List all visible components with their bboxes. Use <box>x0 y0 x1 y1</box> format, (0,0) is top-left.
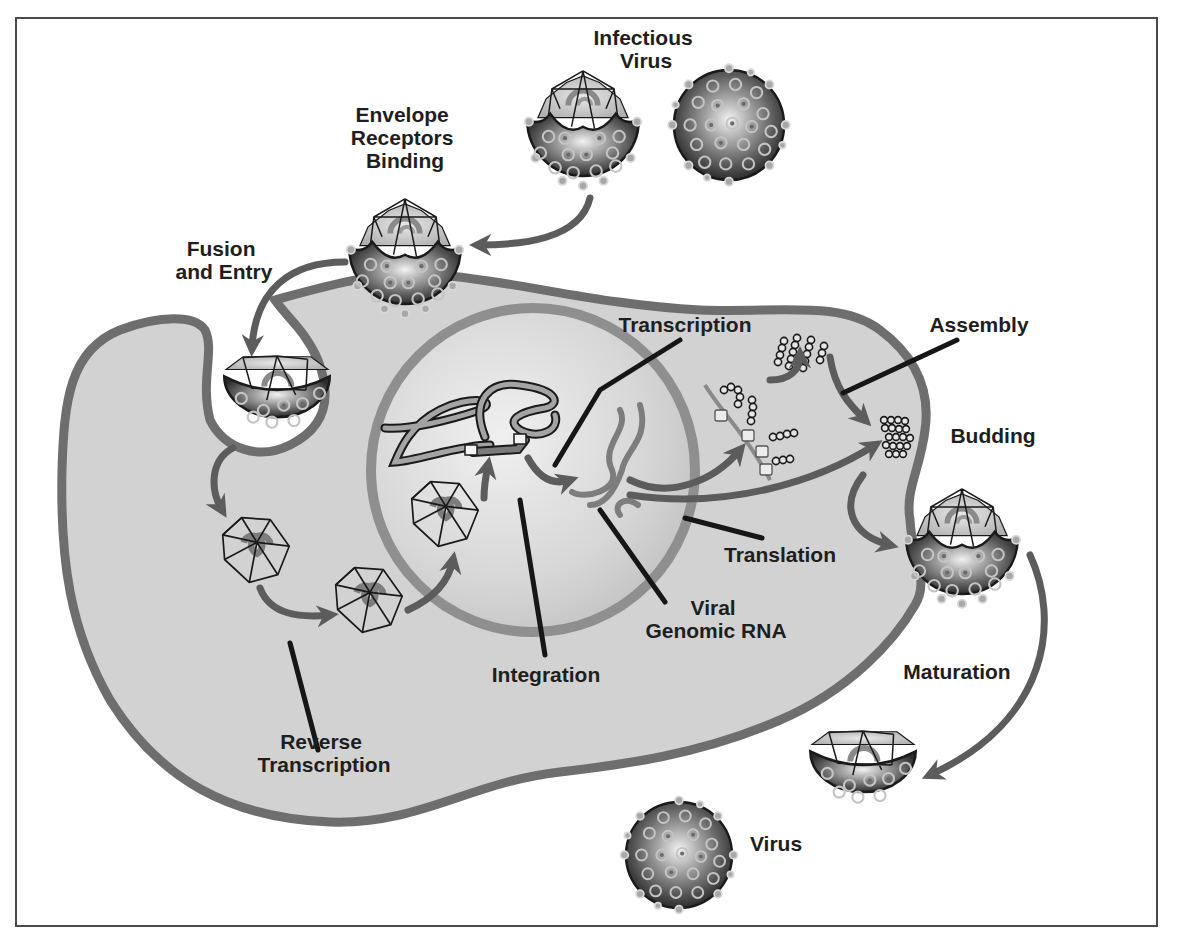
label-integration: Integration <box>492 663 601 686</box>
label-virus: Virus <box>750 832 802 855</box>
mature-virus <box>621 797 738 914</box>
label-translation: Translation <box>724 543 836 566</box>
label-transcription: Transcription <box>618 313 751 336</box>
infectious-virion-whole <box>668 64 790 186</box>
label-maturation: Maturation <box>903 660 1010 683</box>
label-envelope-receptors-binding: Envelope Receptors Binding <box>351 103 460 172</box>
retrovirus-lifecycle-diagram: Infectious Virus Envelope Receptors Bind… <box>0 0 1177 932</box>
label-assembly: Assembly <box>929 313 1029 336</box>
label-infectious-virus: Infectious Virus <box>593 26 698 72</box>
maturing-virion <box>810 731 915 803</box>
infectious-virion-cut <box>525 71 641 190</box>
label-budding: Budding <box>950 424 1035 447</box>
label-fusion-and-entry: Fusion and Entry <box>176 237 273 283</box>
fusion-virion <box>224 356 329 428</box>
